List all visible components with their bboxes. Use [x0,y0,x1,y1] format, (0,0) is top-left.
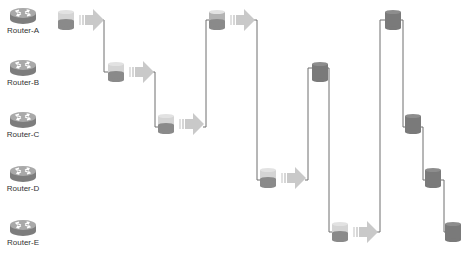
packet-cylinder-icon [405,114,421,139]
connector-lines [0,0,468,256]
packet-cylinder-icon [445,222,461,247]
router-label: Router-C [6,130,40,139]
router-icon [6,59,40,77]
router-icon [6,111,40,129]
packet-cylinder-icon [209,10,225,35]
router-label: Router-D [6,184,40,193]
router-a: Router-A [6,7,40,35]
packet-cylinder-icon [260,168,276,193]
forward-arrow-icon [230,9,256,35]
packet-cylinder-icon [158,114,174,139]
router-b: Router-B [6,59,40,87]
forward-arrow-icon [353,221,379,247]
forward-arrow-icon [281,167,307,193]
router-label: Router-A [6,26,40,35]
router-label: Router-B [6,78,40,87]
router-d: Router-D [6,165,40,193]
router-e: Router-E [6,219,40,247]
forward-arrow-icon [79,9,105,35]
packet-cylinder-icon [312,62,328,87]
router-c: Router-C [6,111,40,139]
packet-cylinder-icon [385,10,401,35]
forward-arrow-icon [129,61,155,87]
router-icon [6,219,40,237]
packet-cylinder-icon [58,10,74,35]
router-label: Router-E [6,238,40,247]
router-icon [6,165,40,183]
forward-arrow-icon [179,113,205,139]
packet-cylinder-icon [332,222,348,247]
packet-cylinder-icon [108,62,124,87]
packet-cylinder-icon [425,168,441,193]
router-icon [6,7,40,25]
diagram-canvas: Router-A Router-B Router-C Router-D Rout… [0,0,468,256]
